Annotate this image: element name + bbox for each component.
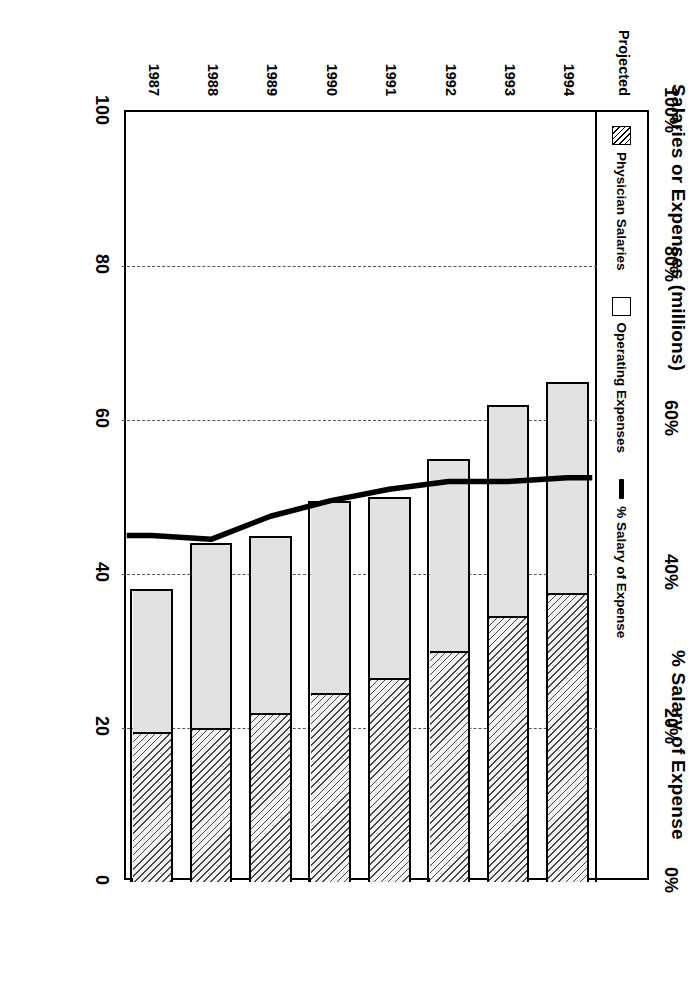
projected-note: Projected [616,0,632,96]
legend-label: Operating Expenses [615,323,630,454]
legend-item-physician-salaries[interactable]: Physician Salaries [613,126,632,271]
open-swatch-icon [613,297,632,316]
category-label-1992: 1992 [443,0,459,96]
right-tick-100%: 100% [660,87,681,133]
category-label-1988: 1988 [205,0,221,96]
left-tick-20: 20 [91,716,112,736]
line-swatch-icon [620,479,625,499]
category-label-1987: 1987 [146,0,162,96]
chart-legend: Physician Salaries Operating Expenses % … [597,112,647,882]
right-tick-40%: 40% [660,554,681,590]
legend-label: Physician Salaries [615,152,630,271]
category-label-1991: 1991 [383,0,399,96]
legend-item-operating-expenses[interactable]: Operating Expenses [613,297,632,454]
plot-area: Physician Salaries Operating Expenses % … [124,110,649,880]
category-label-1989: 1989 [264,0,280,96]
legend-item-pct-salary-of-expense[interactable]: % Salary of Expense [615,479,630,638]
rotated-figure-wrapper: Salaries or Expenses (millions) % Salary… [0,0,699,990]
pct-salary-line [127,478,593,540]
category-label-1990: 1990 [324,0,340,96]
category-label-1993: 1993 [502,0,518,96]
left-tick-60: 60 [91,408,112,428]
category-label-1994: 1994 [561,0,577,96]
left-tick-100: 100 [91,95,112,125]
legend-label: % Salary of Expense [615,506,630,638]
right-axis-title: % Salary of Expense [667,650,689,840]
chart-figure: Salaries or Expenses (millions) % Salary… [0,0,699,990]
left-tick-40: 40 [91,562,112,582]
line-series-layer [122,112,597,882]
right-tick-80%: 80% [660,246,681,282]
hatch-swatch-icon [613,126,632,145]
right-tick-60%: 60% [660,400,681,436]
left-tick-0: 0 [91,875,112,885]
right-tick-20%: 20% [660,708,681,744]
left-tick-80: 80 [91,254,112,274]
right-tick-0%: 0% [660,867,681,893]
